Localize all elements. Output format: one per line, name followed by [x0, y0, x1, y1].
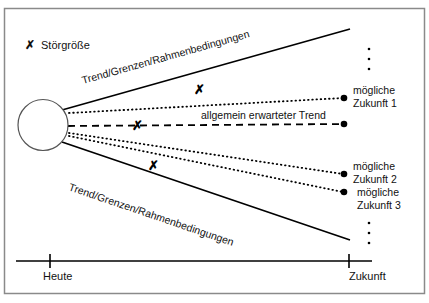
- expected-trend-label: allgemein erwarteter Trend: [201, 109, 326, 121]
- future-3-label-line1: mögliche: [357, 186, 399, 198]
- axis-label-zukunft: Zukunft: [349, 270, 386, 282]
- endpoint-dot-expected-trend: [341, 121, 348, 128]
- future-2-label-line2: Zukunft 2: [353, 173, 397, 185]
- future-1-label-line2: Zukunft 1: [353, 97, 397, 109]
- scenario-funnel-canvas: ✗ ✗ ✗ ✗ Störgröße Trend/Grenzen/Rahmenbe…: [0, 0, 429, 303]
- figure-frame: [5, 9, 425, 294]
- present-state-ellipse: [18, 100, 68, 151]
- future-1-label-line1: mögliche: [353, 84, 395, 96]
- future-3-label-line2: Zukunft 3: [357, 199, 401, 211]
- endpoint-dot-future-3: [341, 189, 348, 196]
- legend-disturbance-icon: ✗: [25, 38, 35, 52]
- disturbance-marker-1: ✗: [194, 83, 205, 97]
- endpoint-dot-future-2: [341, 171, 348, 178]
- scenario-funnel-figure: ✗ ✗ ✗ ✗ Störgröße Trend/Grenzen/Rahmenbe…: [0, 0, 429, 303]
- legend-disturbance-label: Störgröße: [41, 39, 90, 51]
- disturbance-marker-2: ✗: [132, 119, 143, 133]
- disturbance-marker-3: ✗: [148, 159, 159, 173]
- axis-label-heute: Heute: [43, 270, 72, 282]
- endpoint-dot-future-1: [341, 95, 348, 102]
- future-2-label-line1: mögliche: [353, 160, 395, 172]
